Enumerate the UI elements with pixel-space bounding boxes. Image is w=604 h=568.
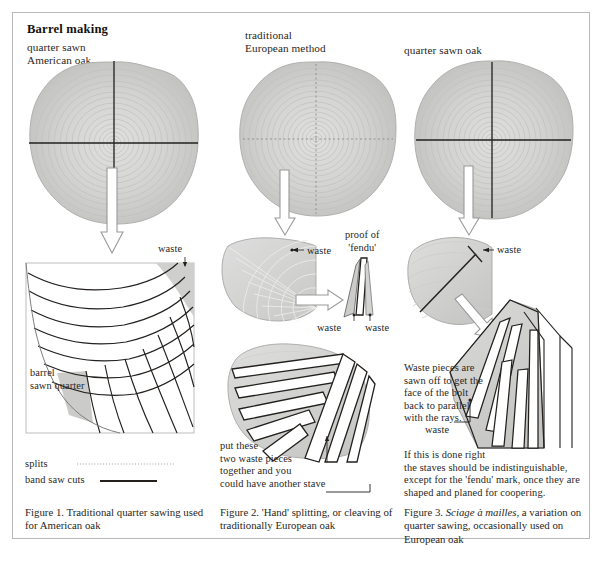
right-arrow-fendu	[296, 289, 344, 311]
figure3-caption-prefix: Figure 3.	[404, 506, 446, 518]
log-cross-section-2	[238, 60, 398, 218]
figure3-waste-top-label: waste	[497, 244, 521, 257]
figure3-caption: Figure 3. Sciage à mailles, a variation …	[404, 506, 582, 546]
figure1-caption: Figure 1. Traditional quarter sawing use…	[25, 506, 205, 533]
figure3-note-secondary: If this is done right the staves should …	[404, 449, 580, 499]
down-arrow-3	[458, 166, 480, 236]
legend-label-band-saw-cuts: band saw cuts	[25, 474, 85, 487]
figure1-quarter-diagram	[25, 255, 197, 445]
figure2-waste-left-label: waste	[317, 322, 341, 335]
figure2-note: put these two waste pieces together and …	[220, 440, 325, 490]
figure1-waste-label: waste	[158, 243, 182, 256]
figure3-caption-italic: Sciage à mailles	[446, 506, 517, 518]
log-label-quarter-sawn-oak: quarter sawn oak	[404, 44, 482, 57]
figure2-waste-label: waste	[307, 245, 331, 258]
figure3-note: Waste pieces are sawn off to get the fac…	[404, 362, 483, 425]
figure2-fendu-stave	[340, 257, 380, 323]
figure2-waste-right-label: waste	[365, 322, 389, 335]
page-title: Barrel making	[27, 22, 108, 37]
figure2-caption: Figure 2. 'Hand' splitting, or cleaving …	[220, 506, 400, 533]
figure1-barrel-label: barrel sawn quarter	[30, 367, 85, 392]
log-cross-section-3	[414, 59, 574, 222]
down-arrow-1	[100, 168, 124, 254]
log-label-european-method: traditional European method	[245, 29, 326, 55]
legend-label-splits: splits	[25, 458, 48, 471]
down-arrow-2	[274, 170, 296, 236]
diagram-page: Barrel making quarter sawn American oak …	[0, 0, 604, 568]
figure3-waste-bottom-label: waste	[425, 424, 449, 437]
figure2-note-leader	[326, 484, 382, 494]
figure2-proof-of-fendu-label: proof of 'fendu'	[345, 229, 380, 254]
